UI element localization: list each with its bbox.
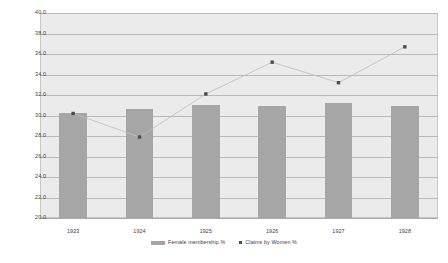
- x-tick-label: 1927: [309, 229, 369, 234]
- bar: [325, 103, 353, 218]
- x-tick-label: 1926: [242, 229, 302, 234]
- x-tick-label: 1928: [375, 229, 435, 234]
- bar: [59, 113, 87, 218]
- y-tick-label: 24.0: [12, 174, 46, 179]
- y-tick-label: 38.0: [12, 31, 46, 36]
- bar: [258, 106, 286, 218]
- y-tick-label: 26.0: [12, 154, 46, 159]
- gridline: [40, 95, 438, 96]
- gridline: [40, 177, 438, 178]
- bar: [391, 106, 419, 218]
- gridline: [40, 34, 438, 35]
- dot-marker-icon: [239, 241, 242, 244]
- gridline: [40, 75, 438, 76]
- legend-item-label: Female membership %: [168, 240, 225, 245]
- gridline: [40, 54, 438, 55]
- y-tick-label: 20.0: [12, 215, 46, 220]
- bar-swatch-icon: [151, 241, 165, 245]
- gridline: [40, 136, 438, 137]
- y-tick-label: 22.0: [12, 195, 46, 200]
- y-tick-label: 30.0: [12, 113, 46, 118]
- gridline: [40, 218, 438, 219]
- bar: [192, 105, 220, 218]
- gridline: [40, 157, 438, 158]
- x-tick-label: 1924: [110, 229, 170, 234]
- y-tick-label: 28.0: [12, 133, 46, 138]
- y-tick-label: 34.0: [12, 72, 46, 77]
- chart-legend: Female membership % Claims by Women %: [0, 240, 448, 245]
- legend-item-female-membership: Female membership %: [151, 240, 225, 245]
- bar: [126, 109, 154, 218]
- x-tick-label: 1925: [176, 229, 236, 234]
- legend-item-claims-by-women: Claims by Women %: [239, 240, 297, 245]
- gridline: [40, 13, 438, 14]
- chart-container: 20.022.024.026.028.030.032.034.036.038.0…: [0, 0, 448, 263]
- y-tick-label: 32.0: [12, 92, 46, 97]
- y-tick-label: 40.0: [12, 10, 46, 15]
- y-tick-label: 36.0: [12, 51, 46, 56]
- x-tick-label: 1923: [43, 229, 103, 234]
- gridline: [40, 198, 438, 199]
- gridline: [40, 116, 438, 117]
- legend-item-label: Claims by Women %: [245, 240, 297, 245]
